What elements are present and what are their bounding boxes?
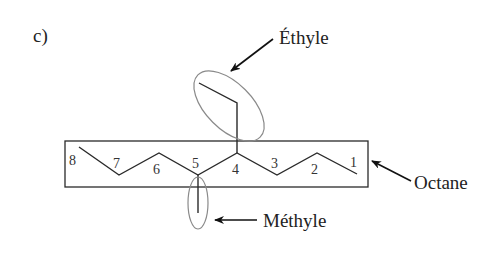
carbon-number-7: 7 [113, 156, 120, 171]
carbon-number-6: 6 [153, 162, 160, 177]
methyl-label: Méthyle [263, 210, 326, 231]
panel-label: c) [33, 25, 48, 47]
octane-diagram: c) 8 7 6 5 4 3 2 1 Éthyle Octane Méthyle [0, 0, 504, 256]
octane-arrow [372, 161, 411, 181]
ethyl-ellipse [182, 59, 277, 154]
ethyl-label: Éthyle [279, 27, 329, 48]
carbon-number-5: 5 [192, 156, 199, 171]
carbon-number-1: 1 [350, 155, 357, 170]
carbon-number-8: 8 [69, 153, 76, 168]
carbon-number-4: 4 [232, 162, 239, 177]
ethyl-arrow [231, 39, 273, 71]
carbon-number-2: 2 [311, 162, 318, 177]
carbon-number-3: 3 [271, 156, 278, 171]
octane-label: Octane [414, 172, 468, 193]
ethyl-bonds [199, 83, 237, 153]
